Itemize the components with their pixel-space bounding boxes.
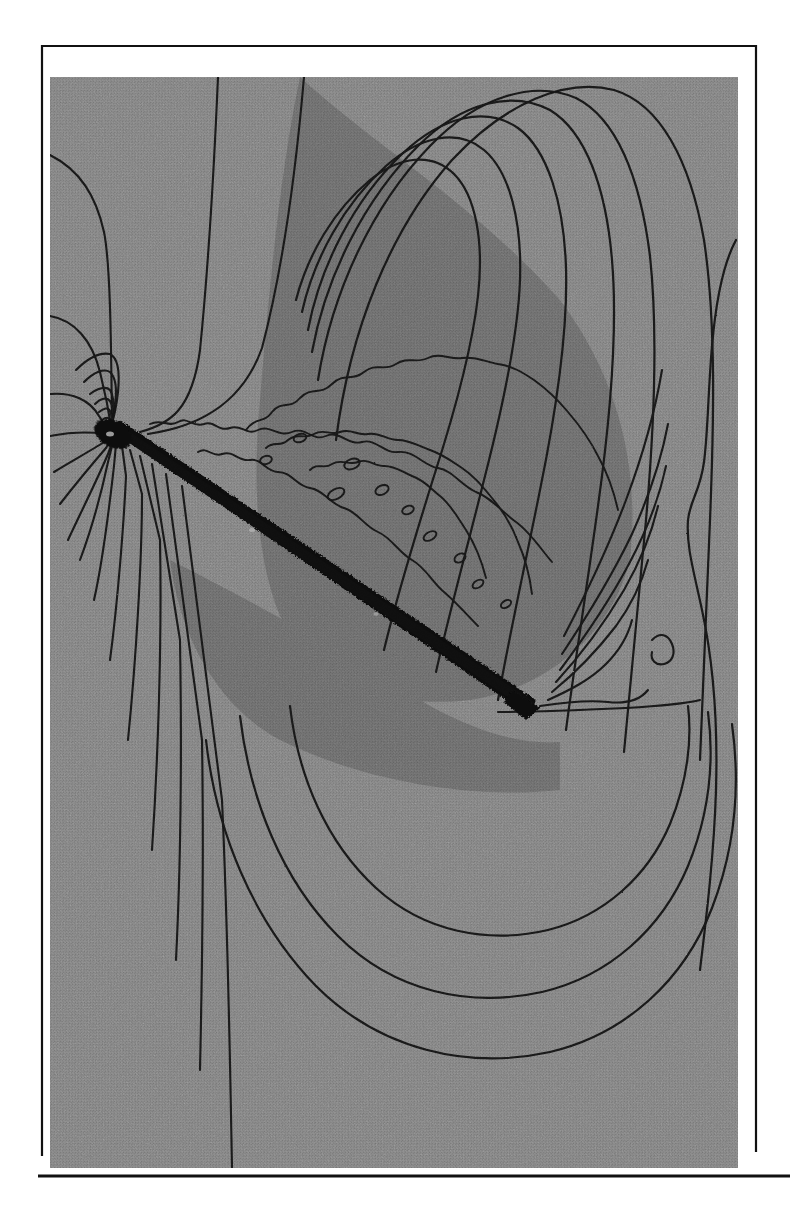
- contour-plot-figure: [0, 0, 800, 1231]
- panel-grain-overlay: [50, 77, 738, 1168]
- figure-root: [0, 0, 800, 1231]
- contour-panel: [50, 77, 738, 1168]
